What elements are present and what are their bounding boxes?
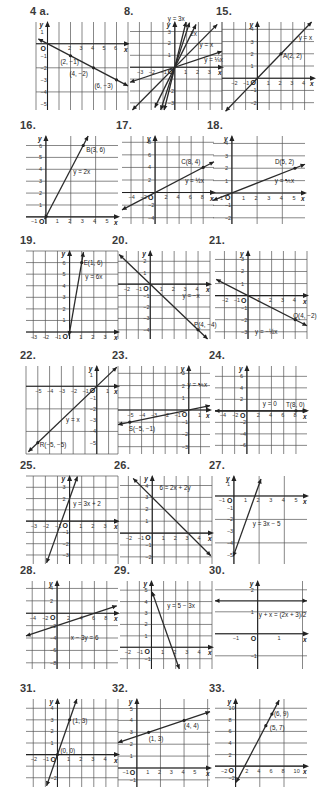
exercise-number: 17. bbox=[116, 119, 132, 131]
y-tick-label: −4 bbox=[240, 431, 246, 437]
x-tick-label: −4 bbox=[30, 615, 36, 621]
plotted-point bbox=[92, 66, 95, 69]
graph-panel-17: 17.xyO−4−224688642−2−4C(8, 4)y = ½x bbox=[122, 122, 222, 230]
x-tick-label: 2 bbox=[165, 194, 168, 200]
y-tick-label: 3 bbox=[39, 178, 42, 184]
x-tick-label: 6 bbox=[189, 194, 192, 200]
y-tick-label: 3 bbox=[63, 484, 66, 490]
y-tick-label: −3 bbox=[241, 329, 247, 335]
x-tick-label: 2 bbox=[91, 523, 94, 529]
x-tick-label: 8 bbox=[201, 194, 204, 200]
coordinate-plane: xyO−4−2246842−2−4−6−8x − 3y = 6 bbox=[26, 581, 118, 669]
y-tick-label: −4 bbox=[143, 327, 149, 333]
origin-label: O bbox=[39, 218, 45, 225]
y-axis-arrow-icon bbox=[172, 21, 177, 27]
x-tick-label: 1 bbox=[267, 80, 270, 86]
exercise-number: 18. bbox=[207, 119, 223, 131]
y-tick-label: 2 bbox=[144, 621, 147, 627]
x-tick-label: 3 bbox=[103, 334, 106, 340]
x-axis-label: x bbox=[123, 46, 128, 53]
y-tick-label: 1 bbox=[145, 518, 148, 524]
x-axis-label: x bbox=[207, 535, 212, 542]
graph-line bbox=[122, 162, 214, 210]
y-tick-label: 1 bbox=[63, 317, 66, 323]
equation-label: y = ⅓x bbox=[204, 56, 224, 64]
y-tick-label: 4 bbox=[130, 717, 133, 723]
y-tick-label: 1 bbox=[41, 29, 44, 35]
coordinate-plane: xyO−1123454321−1−2D(5, 2)y = ⅖x bbox=[213, 136, 305, 224]
x-tick-label: 2 bbox=[91, 334, 94, 340]
line-arrow-icon bbox=[303, 599, 308, 603]
grid-lines bbox=[26, 251, 118, 339]
x-tick-label: −2 bbox=[31, 756, 37, 762]
x-tick-label: −1 bbox=[233, 635, 239, 641]
plotted-point bbox=[293, 167, 296, 170]
line-arrow-icon bbox=[74, 477, 78, 482]
y-tick-label: 3 bbox=[144, 610, 147, 616]
exercise-number: 22. bbox=[20, 349, 36, 361]
line-arrow-icon bbox=[257, 479, 261, 484]
x-tick-label: −4 bbox=[47, 388, 53, 394]
y-axis-label: y bbox=[61, 475, 66, 483]
y-tick-label: −1 bbox=[225, 202, 231, 208]
graph-line bbox=[69, 252, 84, 335]
equation-label: 2x bbox=[190, 30, 198, 37]
y-tick-label: 6 bbox=[229, 728, 232, 734]
y-tick-label: 2 bbox=[251, 587, 254, 593]
y-tick-label: 3 bbox=[63, 294, 66, 300]
y-tick-label: −1 bbox=[251, 653, 257, 659]
coordinate-plane: xyO−3−2−1123321−2−3y = 3x2xy = xy = ⅓x bbox=[130, 22, 222, 110]
y-axis-arrow-icon bbox=[255, 580, 260, 586]
x-tick-label: 3 bbox=[81, 218, 84, 224]
x-tick-label: 8 bbox=[293, 412, 296, 418]
x-axis-label: x bbox=[302, 413, 307, 420]
exercise-number: 15. bbox=[216, 5, 232, 17]
y-tick-label: −1 bbox=[41, 53, 47, 59]
point-label: (4, −2) bbox=[70, 70, 88, 78]
x-axis-label: x bbox=[113, 523, 118, 530]
y-tick-label: −4 bbox=[41, 89, 47, 95]
point-label: (4, 4) bbox=[184, 722, 199, 730]
y-tick-label: −1 bbox=[144, 656, 150, 662]
y-tick-label: 3 bbox=[145, 494, 148, 500]
exercise-number: 30. bbox=[209, 564, 225, 576]
y-tick-label: −1 bbox=[130, 777, 136, 783]
x-tick-label: 6 bbox=[281, 412, 284, 418]
x-tick-label: 1 bbox=[146, 769, 149, 775]
line-arrow-icon bbox=[215, 599, 220, 603]
y-tick-label: −2 bbox=[227, 516, 233, 522]
equation-label: y = ⅖x bbox=[275, 177, 295, 185]
coordinate-plane: xyO−112345654321B(3, 6)y = 2x bbox=[26, 136, 118, 224]
line-arrow-icon bbox=[46, 781, 50, 786]
exercise-number: 31. bbox=[20, 682, 36, 694]
x-tick-label: 8 bbox=[104, 615, 107, 621]
x-tick-label: 10 bbox=[294, 768, 300, 774]
equation-label: y = 3x bbox=[168, 15, 186, 23]
x-tick-label: 1 bbox=[79, 334, 82, 340]
line-arrow-icon bbox=[233, 551, 237, 556]
origin-label: O bbox=[241, 297, 247, 304]
grid-lines bbox=[215, 251, 307, 339]
plotted-point bbox=[115, 78, 118, 81]
coordinate-plane: xyO−1123451−1−2−3−4−5y = 3x − 5 bbox=[215, 476, 307, 564]
y-axis-arrow-icon bbox=[153, 135, 158, 141]
y-tick-label: 2 bbox=[240, 396, 243, 402]
x-tick-label: 5 bbox=[193, 769, 196, 775]
y-tick-label: −2 bbox=[229, 775, 235, 781]
x-tick-label: 2 bbox=[196, 69, 199, 75]
equation-label: y = −½x bbox=[255, 328, 278, 336]
y-tick-label: 4 bbox=[240, 385, 243, 391]
y-tick-label: −4 bbox=[90, 428, 96, 434]
exercise-number: 16. bbox=[20, 119, 36, 131]
x-tick-label: 2 bbox=[257, 412, 260, 418]
x-tick-label: 1 bbox=[56, 218, 59, 224]
y-tick-label: 1 bbox=[143, 270, 146, 276]
y-tick-label: 4 bbox=[50, 705, 53, 711]
coordinate-plane: xyO−4−224688642−2−4C(8, 4)y = ½x bbox=[122, 136, 214, 224]
x-tick-label: 4 bbox=[197, 649, 200, 655]
x-tick-label: −2 bbox=[125, 649, 131, 655]
y-tick-label: −4 bbox=[227, 540, 233, 546]
origin-label: O bbox=[41, 45, 47, 52]
point-label: (2, −1) bbox=[61, 58, 79, 66]
origin-label: O bbox=[63, 333, 69, 340]
